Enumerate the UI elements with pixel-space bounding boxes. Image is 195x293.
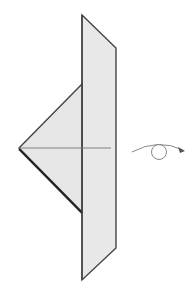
turn-over-icon bbox=[132, 144, 185, 159]
paper-strip bbox=[82, 15, 116, 280]
origami-diagram bbox=[0, 0, 195, 293]
